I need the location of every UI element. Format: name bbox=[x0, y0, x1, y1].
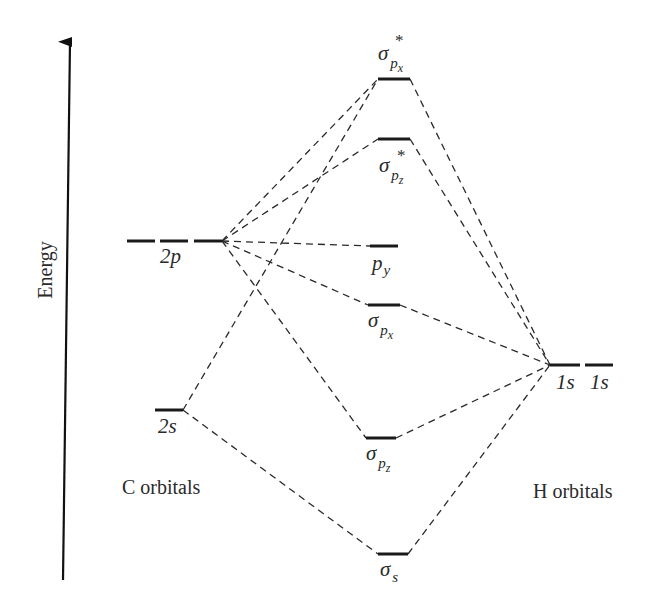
carbon-orbitals: 2p 2s C orbitals bbox=[122, 241, 222, 498]
mo-sigma-star-pz: * σpz bbox=[378, 139, 410, 187]
connection-1s-sigma-pz bbox=[396, 365, 550, 438]
molecular-orbitals: σpx * * σpz py σpx bbox=[366, 31, 410, 585]
connection-2p-py bbox=[222, 241, 370, 246]
connection-1s-sigma-s bbox=[408, 365, 550, 554]
mo-py-label: py bbox=[370, 251, 391, 278]
mo-sigma-px-label: σpx bbox=[368, 308, 394, 342]
connection-1s-sigma-star-pz bbox=[410, 139, 550, 365]
orbital-2s: 2s bbox=[155, 410, 183, 438]
connection-2s-sigma-star-px bbox=[183, 79, 378, 410]
connection-1s-sigma-px bbox=[400, 305, 550, 365]
connection-2p-sigma-star-pz bbox=[222, 139, 378, 241]
connection-2p-sigma-star-px bbox=[222, 79, 378, 241]
connection-lines bbox=[183, 79, 550, 554]
connection-2s-sigma-s bbox=[183, 410, 378, 554]
mo-diagram: Energy 2p 2s C orbitals bbox=[0, 0, 665, 614]
connection-1s-sigma-star-px bbox=[410, 79, 550, 365]
mo-sigma-pz-label: σpz bbox=[366, 441, 391, 475]
mo-sigma-star-pz-star: * bbox=[397, 146, 406, 165]
mo-sigma-star-px: σpx * bbox=[378, 31, 410, 79]
hydrogen-orbitals-label: H orbitals bbox=[533, 480, 613, 502]
mo-sigma-pz: σpz bbox=[366, 438, 396, 475]
orbital-1s-a: 1s bbox=[550, 365, 580, 394]
mo-sigma-star-px-star: * bbox=[395, 31, 404, 50]
energy-axis-label: Energy bbox=[34, 241, 57, 298]
orbital-2p: 2p bbox=[127, 241, 222, 268]
mo-sigma-px: σpx bbox=[368, 305, 400, 342]
orbital-1s-a-label: 1s bbox=[556, 370, 575, 394]
orbital-2s-label: 2s bbox=[158, 414, 177, 438]
hydrogen-orbitals: 1s 1s H orbitals bbox=[533, 365, 613, 502]
energy-axis: Energy bbox=[34, 42, 70, 580]
connection-2p-sigma-px bbox=[222, 241, 368, 305]
orbital-1s-b: 1s bbox=[585, 365, 613, 394]
mo-py: py bbox=[370, 246, 398, 278]
mo-sigma-s: σs bbox=[378, 554, 408, 585]
mo-sigma-s-label: σs bbox=[380, 557, 398, 585]
orbital-2p-label: 2p bbox=[160, 244, 181, 268]
carbon-orbitals-label: C orbitals bbox=[122, 476, 201, 498]
energy-arrow-icon bbox=[63, 42, 70, 580]
connection-2p-sigma-pz bbox=[222, 241, 366, 438]
orbital-1s-b-label: 1s bbox=[590, 370, 609, 394]
